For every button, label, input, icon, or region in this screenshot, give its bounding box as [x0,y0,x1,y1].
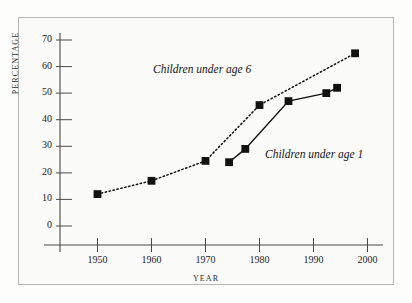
y-tick-label-50: 50 [26,86,52,97]
x-tick-label-1980: 1980 [240,254,280,265]
x-tick-label-1960: 1960 [132,254,172,265]
x-axis-title: YEAR [0,274,412,283]
x-tick-label-1950: 1950 [78,254,118,265]
y-axis-title: PERCENTAGE [11,18,20,108]
x-tick-label-1970: 1970 [186,254,226,265]
x-tick-label-2000: 2000 [348,254,388,265]
y-tick-label-20: 20 [26,166,52,177]
y-tick-label-0: 0 [26,219,52,230]
y-tick-label-40: 40 [26,113,52,124]
y-tick-label-10: 10 [26,192,52,203]
series-label-children-under-age-1: Children under age 1 [265,148,363,160]
y-axis-ticks [56,40,72,226]
y-tick-label-60: 60 [26,60,52,71]
y-tick-label-30: 30 [26,139,52,150]
y-tick-label-70: 70 [26,33,52,44]
chart-page: 70 60 50 40 30 20 10 0 1950 1960 1970 19… [0,0,412,303]
series-label-children-under-age-6: Children under age 6 [153,63,251,75]
x-tick-label-1990: 1990 [294,254,334,265]
